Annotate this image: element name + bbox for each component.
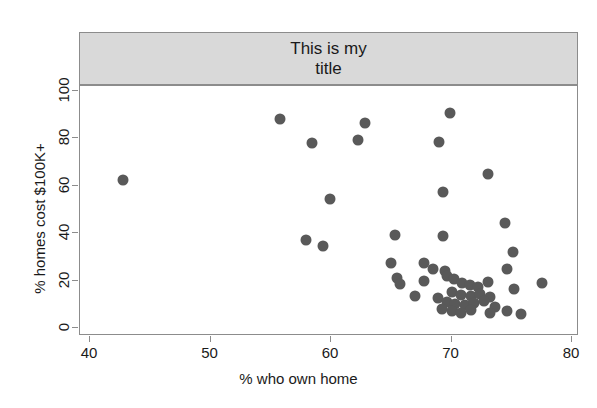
y-tick-label: 0 [55,312,72,342]
data-point [485,307,496,318]
data-point [434,136,445,147]
data-point [438,186,449,197]
data-point [438,230,449,241]
x-tick-mark [330,336,331,342]
y-tick-mark [72,90,78,91]
data-point [410,291,421,302]
x-tick-label: 40 [81,344,98,361]
plot-panel [79,85,578,335]
y-tick-label: 60 [55,170,72,200]
data-point [117,175,128,186]
data-point [465,305,476,316]
x-tick-label: 60 [322,344,339,361]
data-point [324,194,335,205]
data-point [352,135,363,146]
data-point [300,235,311,246]
data-point [501,306,512,317]
data-point [499,218,510,229]
data-point [445,107,456,118]
y-axis-title: % homes cost $100K+ [31,94,48,344]
data-point [482,276,493,287]
data-point [389,230,400,241]
y-tick-mark [72,280,78,281]
data-points-layer [80,86,577,334]
y-tick-mark [72,232,78,233]
x-tick-mark [571,336,572,342]
data-point [317,240,328,251]
data-point [275,113,286,124]
scatter-plot-figure: This is my title 4050607080 020406080100… [0,0,597,408]
data-point [507,246,518,257]
x-tick-mark [89,336,90,342]
x-axis-title: % who own home [0,370,597,387]
data-point [306,137,317,148]
data-point [516,308,527,319]
x-tick-label: 80 [563,344,580,361]
data-point [479,295,490,306]
data-point [536,277,547,288]
data-point [359,117,370,128]
data-point [482,169,493,180]
x-tick-label: 50 [201,344,218,361]
x-tick-mark [451,336,452,342]
x-tick-label: 70 [442,344,459,361]
data-point [386,258,397,269]
y-tick-mark [72,327,78,328]
data-point [509,283,520,294]
y-tick-mark [72,185,78,186]
data-point [418,275,429,286]
data-point [428,263,439,274]
panel-strip-header: This is my title [79,32,578,85]
y-tick-label: 40 [55,217,72,247]
data-point [394,279,405,290]
data-point [501,263,512,274]
y-tick-label: 20 [55,265,72,295]
chart-title: This is my title [290,39,367,79]
x-tick-mark [210,336,211,342]
y-tick-label: 100 [55,75,72,105]
y-tick-mark [72,137,78,138]
y-tick-label: 80 [55,122,72,152]
